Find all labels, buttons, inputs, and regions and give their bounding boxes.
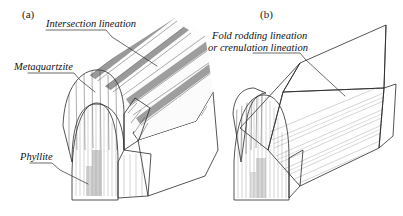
panel-a-letter: (a) [22, 8, 35, 21]
block-diagram-scene: (a) (b) Intersection lineation Metaquart… [0, 0, 403, 216]
panel-b-hinge-sliver [289, 150, 303, 198]
leader-phyllite [30, 163, 88, 184]
panel-b-corrugated-surface [268, 84, 386, 186]
panel-b-end-cap [379, 84, 396, 148]
label-fold-rodding-lineation-line1: Fold rodding lineation [211, 30, 307, 41]
panel-a-phyllite-extension [118, 150, 151, 198]
panel-b-letter: (b) [260, 8, 273, 21]
label-metaquartzite: Metaquartzite [13, 61, 73, 72]
leader-fold-rodding-lineation [253, 53, 345, 96]
label-intersection-lineation: Intersection lineation [45, 18, 136, 29]
label-phyllite: Phyllite [19, 151, 53, 162]
panel-a-diagram [63, 10, 225, 202]
leader-metaquartzite [28, 73, 95, 92]
label-fold-rodding-lineation-line2: or crenulation lineation [208, 42, 308, 53]
figure-container: (a) (b) Intersection lineation Metaquart… [0, 0, 403, 216]
panel-b-leader-lines [253, 53, 345, 96]
